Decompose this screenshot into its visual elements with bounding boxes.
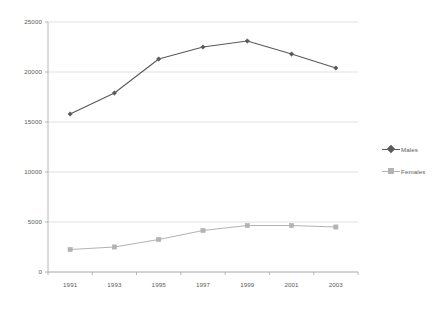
series-line-males [70, 41, 336, 114]
line-chart: 0500010000150002000025000 19911993199519… [0, 0, 447, 309]
chart-legend: MalesFemales [382, 138, 446, 182]
data-point-females-2001 [289, 223, 293, 227]
data-point-males-2001 [289, 52, 293, 56]
data-point-females-1991 [68, 247, 72, 251]
y-axis-label-15000: 15000 [2, 118, 42, 125]
legend-label-males: Males [400, 146, 418, 153]
legend-label-females: Females [400, 168, 425, 175]
data-point-males-1997 [201, 45, 205, 49]
y-axis-label-5000: 5000 [2, 218, 42, 225]
chart-canvas [0, 0, 447, 309]
data-point-females-1995 [157, 237, 161, 241]
y-axis-label-0: 0 [2, 268, 42, 275]
data-point-females-2003 [334, 225, 338, 229]
y-axis-label-25000: 25000 [2, 18, 42, 25]
x-axis-label-1995: 1995 [139, 281, 179, 288]
data-point-females-1993 [112, 245, 116, 249]
legend-swatch-males [382, 145, 400, 153]
y-axis-label-10000: 10000 [2, 168, 42, 175]
x-axis-label-2001: 2001 [272, 281, 312, 288]
x-axis-label-1999: 1999 [227, 281, 267, 288]
data-point-males-1991 [68, 112, 72, 116]
legend-item-females[interactable]: Females [382, 160, 446, 182]
y-axis-label-20000: 20000 [2, 68, 42, 75]
data-point-males-2003 [334, 66, 338, 70]
legend-diamond-marker-icon [387, 145, 395, 153]
x-axis-label-1993: 1993 [94, 281, 134, 288]
legend-swatch-females [382, 167, 400, 175]
data-point-females-1999 [245, 223, 249, 227]
legend-item-males[interactable]: Males [382, 138, 446, 160]
gridlines-group [48, 22, 358, 272]
x-axis-label-1997: 1997 [183, 281, 223, 288]
x-axis-label-1991: 1991 [50, 281, 90, 288]
x-axis-label-2003: 2003 [316, 281, 356, 288]
series-group [68, 39, 338, 252]
data-point-females-1997 [201, 228, 205, 232]
data-point-males-1999 [245, 39, 249, 43]
legend-square-marker-icon [388, 168, 394, 174]
